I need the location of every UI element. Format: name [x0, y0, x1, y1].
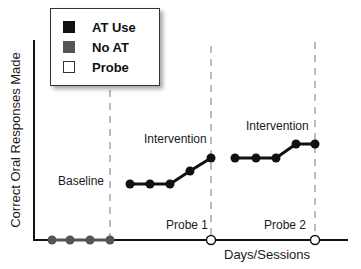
probe1-label: Probe 1: [166, 218, 208, 232]
intervention2-label: Intervention: [246, 119, 309, 133]
probe1-point: [207, 236, 216, 245]
legend-label: Probe: [92, 60, 129, 75]
probe2-point: [311, 236, 320, 245]
legend-label: No AT: [92, 40, 129, 55]
gray-square-icon: [63, 41, 75, 53]
legend-item-at-use: AT Use: [63, 19, 136, 35]
baseline-label: Baseline: [58, 174, 104, 188]
y-axis-label: Correct Oral Responses Made: [8, 52, 23, 228]
probe2-label: Probe 2: [264, 218, 306, 232]
white-square-icon: [63, 61, 75, 73]
legend-item-probe: Probe: [63, 59, 129, 75]
x-axis-label: Days/Sessions: [224, 247, 310, 262]
intervention1-label: Intervention: [144, 132, 207, 146]
legend-item-no-at: No AT: [63, 39, 129, 55]
legend: AT Use No AT Probe: [50, 8, 160, 86]
black-square-icon: [63, 21, 75, 33]
legend-label: AT Use: [92, 20, 136, 35]
